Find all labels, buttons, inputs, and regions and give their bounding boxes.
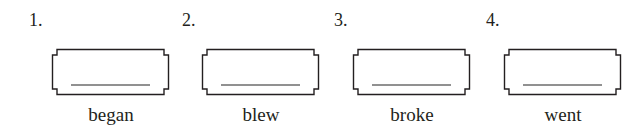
answer-box[interactable] [352, 48, 471, 96]
answer-box[interactable] [51, 48, 170, 96]
item-number: 2. [182, 9, 196, 31]
item-number: 3. [334, 9, 348, 31]
answer-box[interactable] [201, 48, 320, 96]
word-label: blew [181, 103, 341, 127]
word-label: began [31, 103, 191, 127]
notched-frame-icon [352, 48, 471, 96]
item-number: 1. [29, 9, 43, 31]
notched-frame-icon [51, 48, 170, 96]
item-number: 4. [486, 9, 500, 31]
word-label: broke [332, 103, 492, 127]
answer-box[interactable] [503, 48, 622, 96]
word-label: went [483, 103, 643, 127]
notched-frame-icon [201, 48, 320, 96]
notched-frame-icon [503, 48, 622, 96]
